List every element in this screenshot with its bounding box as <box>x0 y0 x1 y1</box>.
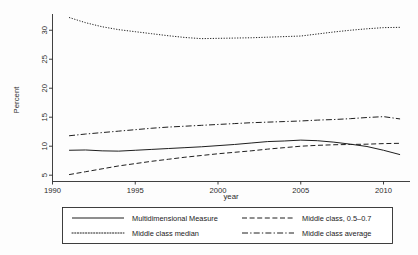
y-tick-label: 15 <box>41 113 50 121</box>
y-tick-label: 25 <box>41 55 50 63</box>
y-tick-group: 51015202530 <box>41 26 53 177</box>
y-tick-label: 20 <box>41 84 50 92</box>
series-line-dashdot <box>69 117 400 136</box>
x-tick-label: 2005 <box>292 186 309 195</box>
series-group <box>69 17 400 174</box>
legend-label: Middle class median <box>132 229 199 238</box>
y-tick-label: 10 <box>41 142 50 150</box>
x-axis-title: year <box>223 192 239 201</box>
x-tick-label: 1990 <box>44 186 61 195</box>
series-line-dotted <box>69 17 400 38</box>
x-tick-label: 2010 <box>375 186 392 195</box>
chart-figure: 51015202530 19901995200020052010 Percent… <box>0 0 418 255</box>
y-tick-label: 30 <box>41 26 50 34</box>
legend-label: Middle class, 0.5–0.7 <box>302 214 371 223</box>
y-tick-label: 5 <box>41 173 50 177</box>
x-tick-label: 1995 <box>127 186 144 195</box>
series-line-dashed <box>69 143 400 174</box>
series-line-solid <box>69 140 400 155</box>
legend-label: Multidimensional Measure <box>132 214 218 223</box>
y-axis-title: Percent <box>12 86 21 114</box>
line-chart: 51015202530 19901995200020052010 Percent… <box>0 0 418 255</box>
x-tick-group: 19901995200020052010 <box>44 181 392 195</box>
legend-label: Middle class average <box>302 229 371 238</box>
